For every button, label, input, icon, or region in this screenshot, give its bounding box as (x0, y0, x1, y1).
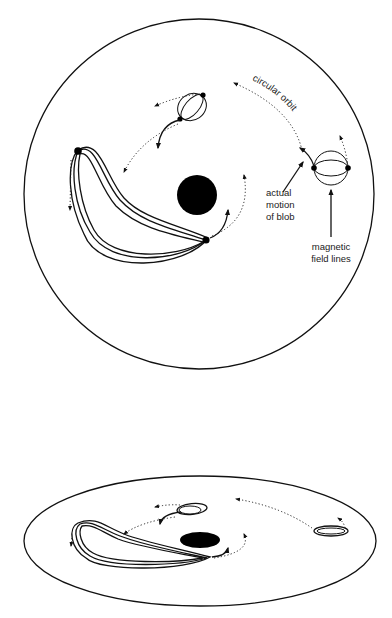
top-view: circular orbit actual motion of blob mag… (24, 19, 374, 369)
black-hole-perspective (180, 532, 220, 548)
actual-motion-label-2: motion (266, 199, 295, 210)
blob-top-perspective (124, 502, 207, 534)
perspective-view (24, 476, 376, 606)
accretion-disk-diagram: circular orbit actual motion of blob mag… (0, 0, 392, 618)
blob-right (300, 136, 351, 185)
blob-stretched (70, 147, 245, 263)
magnetic-label-1: magnetic (312, 241, 351, 252)
magnetic-label-2: field lines (311, 253, 351, 264)
circular-orbit-label: circular orbit (251, 72, 300, 113)
actual-motion-label-3: of blob (266, 211, 295, 222)
circular-orbit-arc (234, 83, 302, 150)
black-hole (177, 175, 217, 215)
actual-motion-label-1: actual (266, 187, 291, 198)
blob-right-perspective (314, 518, 348, 536)
blob-top (124, 88, 212, 172)
blob-stretched-perspective (71, 521, 245, 568)
